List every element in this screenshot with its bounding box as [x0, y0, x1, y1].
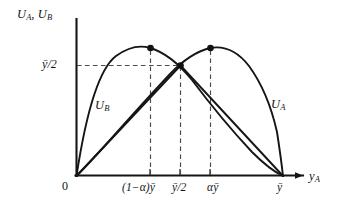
- marker-u-b-peak: [147, 45, 154, 52]
- axis-lines: [76, 19, 304, 179]
- y-axis-label: UA, UB: [17, 8, 52, 21]
- y-axis-label-u-a: U: [17, 7, 26, 21]
- curve-label-u-b-sub: B: [104, 103, 109, 113]
- curve-label-u-a: UA: [271, 98, 285, 111]
- x-axis-label: yA: [309, 170, 320, 183]
- curve-label-u-b: UB: [95, 99, 109, 112]
- x-axis-label-sub-a: A: [315, 174, 320, 184]
- origin-label: 0: [62, 180, 68, 192]
- x-axis-arrowhead: [295, 172, 303, 179]
- curve-label-u-a-sub: A: [280, 102, 285, 112]
- marker-u-a-peak: [207, 45, 214, 52]
- y-axis-label-separator: , U: [31, 7, 47, 21]
- x-tick-label-one-minus-alpha: (1−α)ȳ: [122, 182, 155, 194]
- y-tick-label-yhalf: ȳ/2: [42, 58, 57, 70]
- x-tick-label-yhalf: ȳ/2: [172, 182, 186, 194]
- curve-label-u-a-base: U: [271, 97, 280, 111]
- x-tick-label-alpha-y: αȳ: [207, 182, 218, 194]
- marker-intersection: [177, 62, 184, 69]
- figure-canvas: UA, UB yA ȳ/2 0 (1−α)ȳ ȳ/2 αȳ ȳ UB UA: [0, 0, 341, 209]
- line-intersection-to-ybar: [181, 66, 284, 177]
- curve-label-u-b-base: U: [95, 98, 104, 112]
- plot-area: [0, 0, 341, 209]
- x-tick-label-ybar: ȳ: [277, 182, 282, 194]
- y-axis-label-sub-b: B: [47, 12, 52, 22]
- line-origin-to-intersection: [77, 66, 181, 177]
